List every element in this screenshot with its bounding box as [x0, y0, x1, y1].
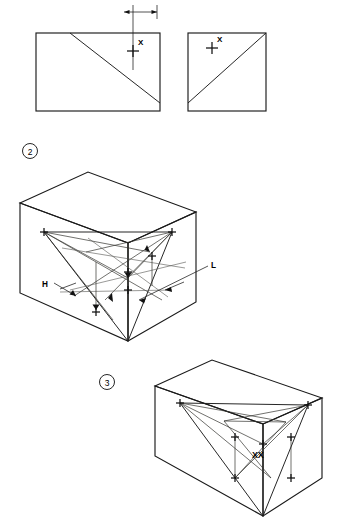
- drawing-sheet: 2: [0, 0, 337, 525]
- iso-construction-lines: [40, 228, 186, 341]
- iso2-left-face: [155, 386, 263, 516]
- isometric-box-upper-group: H L 3: [20, 172, 216, 390]
- dimension-h-tail: [60, 283, 76, 289]
- dimension-h-label: H: [42, 280, 48, 289]
- point-label-xx: XX: [252, 450, 264, 460]
- iso2-construction-lines: [176, 399, 312, 516]
- figure-2-group: 2: [23, 5, 267, 159]
- dimension-l-label: L: [211, 261, 216, 270]
- figure-number-3-text: 3: [105, 378, 110, 388]
- constr-arrow-2-icon: [93, 305, 100, 311]
- front-view-diagonal: [70, 33, 160, 103]
- dimension-l-arrow-icon: [139, 298, 146, 304]
- iso2-right-face: [263, 398, 322, 516]
- figure-number-3-badge: 3: [100, 375, 115, 390]
- technical-drawing-canvas: 2: [0, 0, 337, 525]
- isometric-box-lower-group: XX: [155, 360, 322, 516]
- side-view-rectangle: [188, 33, 266, 111]
- side-view-point-label: X: [217, 35, 223, 44]
- iso-right-face: [128, 212, 196, 341]
- figure-number-2-text: 2: [28, 147, 33, 157]
- arrowhead-left-icon: [124, 10, 130, 14]
- constr-edge-b: [128, 232, 172, 341]
- side-view-group: [188, 33, 266, 111]
- dimension-l-iso: L: [139, 261, 216, 304]
- arrowhead-right-icon: [152, 10, 158, 14]
- dimension-l-arrow2-icon: [165, 287, 172, 292]
- dimension-h-iso: H: [42, 280, 76, 296]
- front-view-point-label: X: [138, 38, 144, 47]
- constr2-top-chord: [180, 403, 308, 405]
- side-view-diagonal: [188, 33, 266, 103]
- figure-number-2-badge: 2: [23, 144, 38, 159]
